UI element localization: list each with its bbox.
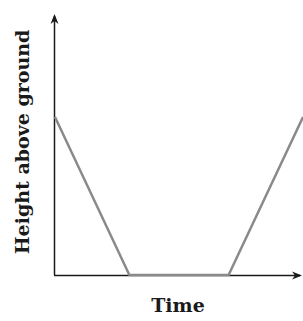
chart-canvas [0, 0, 303, 321]
y-axis-label: Height above ground [11, 30, 33, 255]
x-axis-label: Time [151, 294, 205, 316]
height-series-line [55, 117, 303, 275]
